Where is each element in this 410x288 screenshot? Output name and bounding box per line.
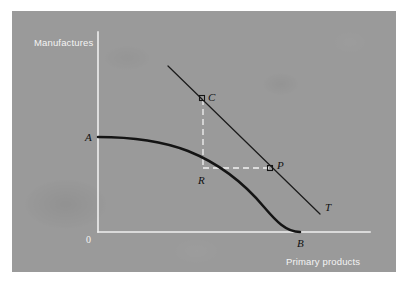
point-label-t: T bbox=[325, 201, 332, 213]
point-label-c: C bbox=[208, 91, 216, 103]
point-label-r: R bbox=[197, 174, 205, 186]
point-label-p: P bbox=[276, 159, 284, 171]
tangent-price-line bbox=[168, 66, 320, 214]
y-axis-title: Manufactures bbox=[34, 37, 93, 48]
point-label-a: A bbox=[84, 131, 92, 143]
origin-label: 0 bbox=[86, 234, 91, 245]
point-label-b: B bbox=[297, 237, 304, 249]
figure-root: Manufactures Primary products 0 A C R P … bbox=[0, 0, 410, 288]
x-axis-title: Primary products bbox=[286, 256, 360, 267]
plot-panel: Manufactures Primary products 0 A C R P … bbox=[12, 11, 396, 272]
ppf-chart: Manufactures Primary products 0 A C R P … bbox=[12, 11, 396, 272]
